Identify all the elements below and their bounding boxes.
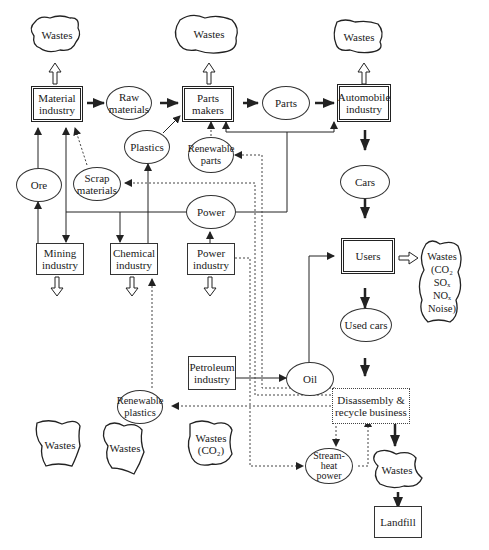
wastes-power-industry: Wastes (CO₂) <box>190 424 232 464</box>
node-label: Renewable parts <box>188 143 235 167</box>
renewable-plastics-node: Renewable plastics <box>117 390 163 424</box>
node-label: Scrap materials <box>77 172 117 196</box>
node-label: Disassembly & recycle business <box>335 394 407 418</box>
landfill-node: Landfill <box>374 506 422 538</box>
node-label: Oil <box>303 373 317 385</box>
node-label: Raw materials <box>109 91 149 115</box>
ore-node: Ore <box>16 168 62 202</box>
mining-industry-node: Mining industry <box>36 243 84 275</box>
disassembly-recycle-node: Disassembly & recycle business <box>332 388 410 424</box>
hollow-arrow <box>49 63 61 84</box>
node-label: Users <box>355 250 380 262</box>
node-label: Power <box>197 206 225 218</box>
node-label: Wastes <box>194 28 225 40</box>
node-label: Cars <box>355 176 375 188</box>
oil-node: Oil <box>286 362 334 396</box>
wastes-mining-industry: Wastes <box>40 428 80 462</box>
node-label: Petroleum industry <box>189 361 234 385</box>
node-label: Wastes <box>42 29 73 41</box>
parts-makers-node: Parts makers <box>182 86 234 122</box>
material-industry-node: Material industry <box>31 86 83 122</box>
hollow-arrow <box>203 63 215 84</box>
node-label: Wastes <box>110 442 141 454</box>
node-label: Automobile industry <box>338 91 391 115</box>
wastes-automobile-industry: Wastes <box>336 22 382 52</box>
wastes-parts-makers: Wastes <box>180 18 238 50</box>
power-node: Power <box>186 195 236 229</box>
raw-materials-node: Raw materials <box>106 86 152 120</box>
renewable-parts-node: Renewable parts <box>188 137 234 173</box>
node-label: Ore <box>31 179 48 191</box>
node-label: Wastes <box>344 31 375 43</box>
node-label: Wastes (CO₂) <box>196 432 227 456</box>
stream-heat-power-node: Stream- heat power <box>305 448 353 484</box>
hollow-arrow <box>204 277 216 296</box>
node-label: Power industry <box>193 247 229 271</box>
node-label: Parts makers <box>192 92 224 116</box>
plastics-node: Plastics <box>124 130 170 164</box>
automobile-industry-node: Automobile industry <box>337 84 391 122</box>
parts-node: Parts <box>262 86 310 120</box>
node-label: Material industry <box>38 92 75 116</box>
petroleum-industry-node: Petroleum industry <box>188 356 236 390</box>
wastes-material-industry: Wastes <box>34 20 80 50</box>
node-label: Chemical industry <box>113 247 155 271</box>
node-label: Wastes <box>382 464 413 476</box>
node-label: Mining industry <box>42 247 78 271</box>
node-label: Wastes (CO₂ SOₓ NOₓ Noise) <box>427 250 456 315</box>
power-industry-node: Power industry <box>187 243 235 275</box>
hollow-arrow <box>399 252 418 264</box>
node-label: Renewable plastics <box>117 395 164 419</box>
node-label: Landfill <box>380 516 415 528</box>
node-label: Parts <box>275 97 297 109</box>
used-cars-node: Used cars <box>340 308 392 342</box>
hollow-arrow <box>51 277 63 296</box>
users-node: Users <box>341 238 395 274</box>
wastes-users: Wastes (CO₂ SOₓ NOₓ Noise) <box>420 244 464 320</box>
node-label: Plastics <box>130 141 164 153</box>
wastes-disassembly: Wastes <box>376 454 418 486</box>
wastes-chemical-industry: Wastes <box>106 428 144 468</box>
hollow-arrow <box>126 277 138 296</box>
node-label: Wastes <box>45 439 76 451</box>
node-label: Used cars <box>344 319 387 331</box>
scrap-materials-node: Scrap materials <box>73 167 121 201</box>
cars-node: Cars <box>340 165 390 199</box>
node-label: Stream- heat power <box>313 451 345 481</box>
hollow-arrow <box>358 63 370 84</box>
chemical-industry-node: Chemical industry <box>110 243 158 275</box>
